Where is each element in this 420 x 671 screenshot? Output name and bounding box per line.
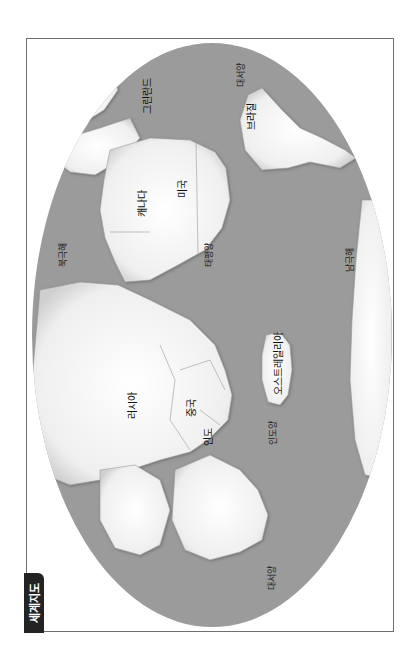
title-badge: 세계지도 — [24, 573, 44, 633]
country-label-brazil: 브라질 — [243, 103, 258, 130]
ocean-label-atlantic-bottom: 대서양 — [265, 566, 278, 590]
ocean-label-indian: 인도양 — [266, 421, 279, 445]
ocean-label-southern: 남극해 — [343, 248, 356, 272]
country-label-australia: 오스트레일리아 — [270, 332, 285, 395]
world-map — [0, 0, 420, 671]
ocean-label-atlantic-top: 대서양 — [234, 63, 247, 87]
country-label-canada: 캐나다 — [134, 190, 149, 217]
title-text: 세계지도 — [26, 583, 42, 623]
ocean-label-arctic: 북극해 — [56, 243, 69, 267]
country-label-china: 중국 — [183, 399, 198, 417]
country-label-russia: 러시아 — [124, 392, 139, 419]
country-label-india: 인도 — [200, 428, 215, 446]
ocean-label-pacific: 태평양 — [202, 243, 215, 267]
country-label-greenland: 그린란드 — [139, 78, 154, 114]
country-label-usa: 미국 — [174, 180, 189, 198]
